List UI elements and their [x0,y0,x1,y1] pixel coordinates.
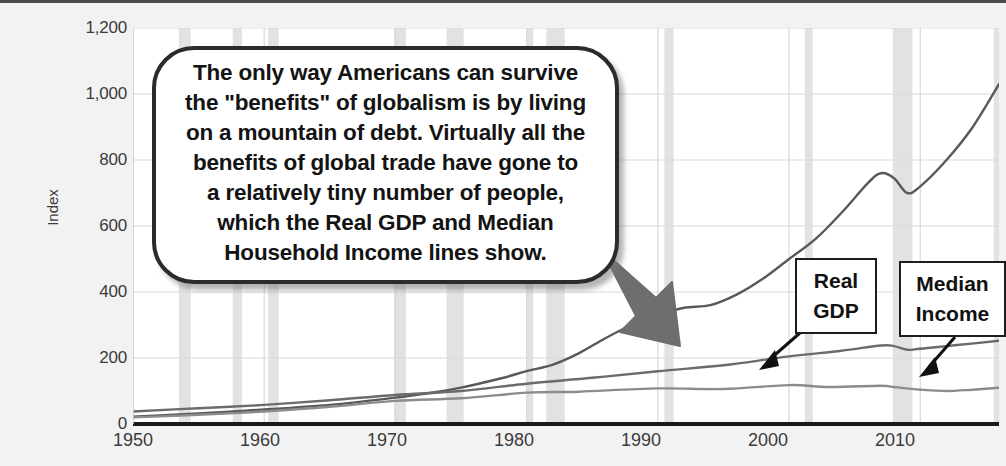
y-tick-400: 400 [47,282,127,302]
annotation-median-income-line1: Median [916,269,988,299]
x-tick-1950: 1950 [88,430,178,451]
y-axis-title: Index [44,148,61,268]
callout-bubble: The only way Americans can survive the "… [152,46,619,284]
series-line [133,385,999,417]
x-tick-1970: 1970 [342,430,432,451]
block-arrow-shape [602,250,680,346]
series-line [133,341,999,412]
x-tick-1980: 1980 [469,430,559,451]
y-tick-1000: 1,000 [47,84,127,104]
callout-pointer-arrow [596,246,756,366]
annotation-real-gdp[interactable]: Real GDP [795,258,877,334]
x-tick-2010: 2010 [850,430,940,451]
gdp-annotation-arrow [755,328,815,378]
x-tick-1960: 1960 [215,430,305,451]
income-annotation-arrow [915,333,975,388]
y-tick-1200: 1,200 [47,18,127,38]
annotation-median-income-line2: Income [916,299,990,329]
annotation-real-gdp-line2: GDP [813,296,859,326]
x-tick-2000: 2000 [723,430,813,451]
annotation-real-gdp-line1: Real [814,266,858,296]
x-tick-1990: 1990 [596,430,686,451]
annotation-median-income[interactable]: Median Income [899,261,1006,337]
y-tick-200: 200 [47,348,127,368]
callout-text: The only way Americans can survive the "… [185,58,586,269]
chart-root: 1,200 1,000 800 600 400 200 0 Index 1950… [0,0,1006,466]
